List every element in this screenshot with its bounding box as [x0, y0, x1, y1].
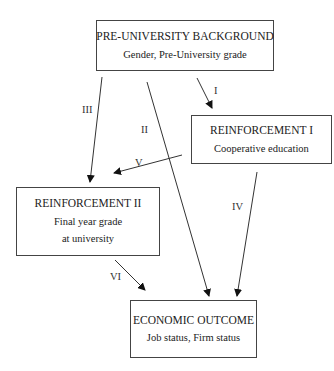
node-title: REINFORCEMENT II	[35, 198, 142, 210]
node-reinforcement-2: REINFORCEMENT II Final year grade at uni…	[16, 187, 160, 256]
node-detail: Job status, Firm status	[147, 333, 240, 344]
edge-I-arrow	[197, 78, 212, 108]
edge-V-arrow	[114, 155, 182, 173]
node-economic-outcome: ECONOMIC OUTCOME Job status, Firm status	[130, 300, 257, 358]
edge-label-VI: VI	[110, 271, 121, 282]
node-detail: Cooperative education	[214, 144, 309, 155]
edge-label-V: V	[135, 157, 143, 168]
edge-label-III: III	[82, 104, 93, 115]
node-detail: at university	[62, 234, 114, 245]
edge-III-arrow	[90, 77, 102, 182]
node-pre-university-background: PRE-UNIVERSITY BACKGROUND Gender, Pre-Un…	[96, 20, 274, 71]
edge-label-I: I	[214, 85, 218, 96]
node-title: ECONOMIC OUTCOME	[133, 315, 254, 327]
node-detail: Gender, Pre-University grade	[123, 50, 247, 61]
node-detail: Final year grade	[54, 217, 122, 228]
node-title: REINFORCEMENT I	[210, 125, 313, 137]
edge-label-IV: IV	[232, 201, 243, 212]
edge-label-II: II	[141, 124, 148, 135]
node-title: PRE-UNIVERSITY BACKGROUND	[96, 31, 274, 43]
edge-IV-arrow	[237, 172, 257, 296]
node-reinforcement-1: REINFORCEMENT I Cooperative education	[191, 115, 332, 164]
